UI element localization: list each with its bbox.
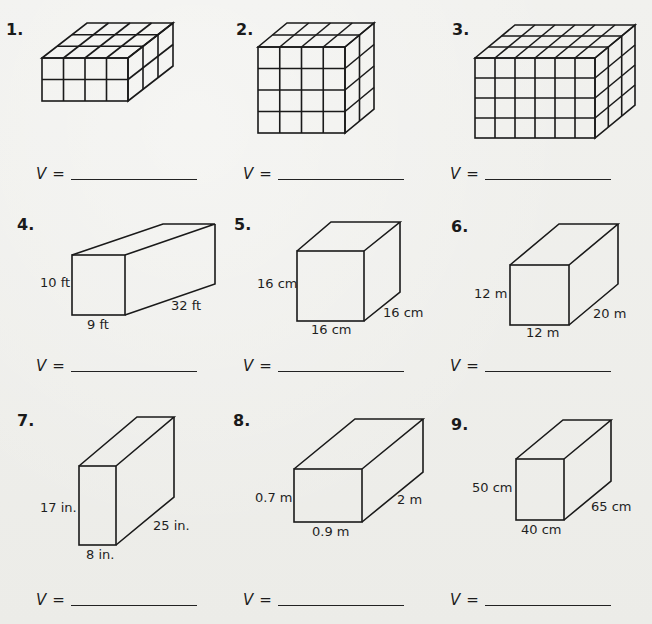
problem-9-answer: V = [450,589,611,609]
problem-9-depth-label: 65 cm [591,499,632,514]
equals-sign: = [466,591,479,609]
problem-9-height-label: 50 cm [472,480,513,495]
problem-9-answer-blank[interactable] [485,589,611,606]
worksheet-page: 1. V = 2. [0,0,652,624]
volume-symbol: V [450,591,460,609]
problem-9-width-label: 40 cm [521,522,562,537]
